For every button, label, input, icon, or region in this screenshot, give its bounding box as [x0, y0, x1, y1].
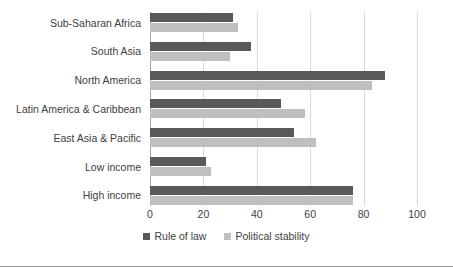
bar-rule-of-law: [150, 13, 233, 22]
bar-groups: [150, 12, 417, 206]
legend-swatch-icon: [143, 233, 150, 240]
x-axis-tick-labels: 020406080100: [150, 208, 417, 224]
bar-rule-of-law: [150, 128, 294, 137]
bar-political-stability: [150, 52, 230, 61]
legend-swatch-icon: [224, 233, 231, 240]
x-tick-label-80: 80: [358, 208, 370, 220]
y-axis-label-0: Sub-Saharan Africa: [0, 12, 146, 33]
bar-political-stability: [150, 167, 211, 176]
x-tick-label-40: 40: [251, 208, 263, 220]
bar-political-stability: [150, 23, 238, 32]
bar-group: [150, 127, 417, 148]
plot-area: [150, 12, 417, 206]
bar-rule-of-law: [150, 186, 353, 195]
legend-label-rule-of-law: Rule of law: [154, 230, 206, 242]
y-axis-label-2: North America: [0, 70, 146, 91]
legend-item-rule-of-law: Rule of law: [143, 230, 206, 242]
bar-rule-of-law: [150, 99, 281, 108]
bar-group: [150, 185, 417, 206]
y-axis-category-labels: Sub-Saharan Africa South Asia North Amer…: [0, 12, 146, 206]
y-axis-label-5: Low income: [0, 156, 146, 177]
y-axis-label-1: South Asia: [0, 41, 146, 62]
bar-rule-of-law: [150, 71, 385, 80]
bar-rule-of-law: [150, 157, 206, 166]
bar-political-stability: [150, 109, 305, 118]
x-tick-label-0: 0: [147, 208, 153, 220]
legend-label-political-stability: Political stability: [235, 230, 309, 242]
bar-group: [150, 41, 417, 62]
bar-group: [150, 98, 417, 119]
x-tick-label-20: 20: [198, 208, 210, 220]
x-tick-label-60: 60: [304, 208, 316, 220]
y-axis-label-6: High income: [0, 185, 146, 206]
chart-legend: Rule of law Political stability: [0, 230, 453, 242]
y-axis-label-3: Latin America & Caribbean: [0, 98, 146, 119]
bar-rule-of-law: [150, 42, 251, 51]
bar-political-stability: [150, 138, 316, 147]
bar-group: [150, 12, 417, 33]
y-axis-label-4: East Asia & Pacific: [0, 127, 146, 148]
bar-group: [150, 70, 417, 91]
legend-item-political-stability: Political stability: [224, 230, 309, 242]
bar-political-stability: [150, 81, 372, 90]
gridline-100: [417, 12, 418, 206]
bar-political-stability: [150, 196, 353, 205]
chart-container: Sub-Saharan Africa South Asia North Amer…: [0, 0, 453, 267]
bar-group: [150, 156, 417, 177]
x-tick-label-100: 100: [408, 208, 426, 220]
